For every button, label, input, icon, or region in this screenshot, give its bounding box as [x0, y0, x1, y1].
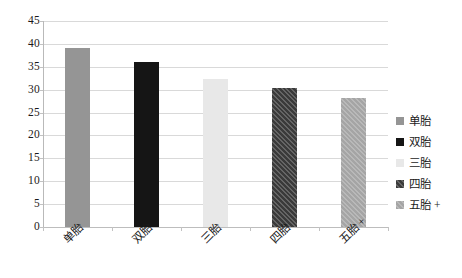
y-tick-label: 0 [4, 221, 40, 232]
y-tick-label: 40 [4, 38, 40, 49]
bar [203, 79, 228, 227]
legend-label: 三胎 [409, 157, 431, 169]
bar-chart: 45 40 35 30 25 20 15 10 5 0 单胎双胎三胎四胎五胎 +… [0, 0, 462, 278]
bar [134, 62, 159, 227]
bars-layer [43, 21, 388, 227]
y-tick-label: 30 [4, 84, 40, 95]
y-axis-labels: 45 40 35 30 25 20 15 10 5 0 [0, 0, 40, 278]
y-tick-label: 45 [4, 15, 40, 26]
legend-swatch-icon [396, 138, 404, 146]
legend-swatch-icon [396, 180, 404, 188]
legend-label: 四胎 [409, 178, 431, 190]
y-tick-label: 10 [4, 175, 40, 186]
y-tick-label: 15 [4, 152, 40, 163]
legend-item: 单胎 [396, 110, 462, 131]
y-tick-label: 35 [4, 61, 40, 72]
legend-label: 单胎 [409, 115, 431, 127]
y-tick-label: 5 [4, 198, 40, 209]
bar [272, 88, 297, 227]
y-tick-label: 20 [4, 129, 40, 140]
legend-swatch-icon [396, 117, 404, 125]
legend-label: 双胎 [409, 136, 431, 148]
legend-swatch-icon [396, 159, 404, 167]
y-tick-label: 25 [4, 107, 40, 118]
bar [65, 48, 90, 227]
bar [341, 98, 366, 227]
legend-item: 四胎 [396, 173, 462, 194]
legend-swatch-icon [396, 201, 404, 209]
x-axis-labels: 单胎双胎三胎四胎五胎 + [43, 231, 389, 278]
legend-item: 五胎 + [396, 194, 462, 215]
legend-item: 三胎 [396, 152, 462, 173]
legend-label: 五胎 + [409, 199, 440, 211]
legend: 单胎双胎三胎四胎五胎 + [396, 110, 462, 215]
legend-item: 双胎 [396, 131, 462, 152]
